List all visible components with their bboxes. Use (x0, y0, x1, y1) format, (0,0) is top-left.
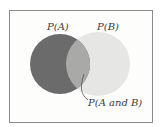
venn-diagram: P(A) P(B) P(A and B) (0, 0, 162, 127)
label-a: P(A) (46, 21, 69, 32)
label-intersection: P(A and B) (87, 97, 142, 108)
label-b: P(B) (96, 21, 119, 32)
